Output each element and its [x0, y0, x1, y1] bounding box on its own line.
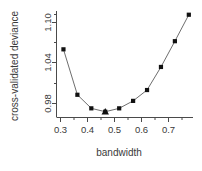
- data-point-marker: [61, 47, 65, 51]
- data-point-marker: [131, 99, 135, 103]
- x-tick-label-2: 0.5: [108, 124, 121, 135]
- x-tick-label-4: 0.7: [162, 124, 175, 135]
- x-tick-label-1: 0.4: [81, 124, 94, 135]
- data-point-marker: [159, 65, 163, 69]
- x-tick-label-0: 0.3: [54, 124, 67, 135]
- data-point-marker: [145, 88, 149, 92]
- chart-figure: 0.98 1.04 1.10 0.3 0.4 0.5 0.6 0.7 bandw…: [0, 0, 202, 171]
- data-point-marker: [187, 13, 191, 17]
- data-point-marker: [117, 106, 121, 110]
- x-tick-label-3: 0.6: [135, 124, 148, 135]
- x-axis-title: bandwidth: [96, 147, 142, 158]
- data-point-marker: [173, 39, 177, 43]
- x-axis-major-ticks: [61, 118, 169, 123]
- data-point-marker: [89, 106, 93, 110]
- data-point-marker: [75, 93, 79, 97]
- y-tick-label-2: 1.10: [42, 13, 53, 32]
- y-axis-title: cross-validated deviance: [9, 11, 20, 121]
- y-tick-label-1: 1.04: [42, 53, 53, 72]
- y-axis-major-ticks: [52, 23, 57, 104]
- data-series-line: [63, 15, 188, 112]
- cross-validated-deviance-plot: 0.98 1.04 1.10 0.3 0.4 0.5 0.6 0.7 bandw…: [0, 0, 202, 171]
- y-tick-label-0: 0.98: [42, 94, 53, 113]
